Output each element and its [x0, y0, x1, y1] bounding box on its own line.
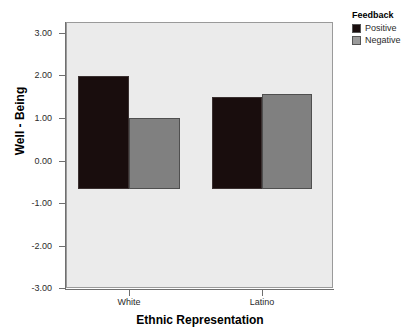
y-axis-line	[65, 22, 66, 289]
y-tick-mark	[59, 203, 66, 204]
chart-legend: Feedback Positive Negative	[352, 10, 416, 47]
legend-title: Feedback	[352, 10, 416, 20]
y-tick-mark	[59, 75, 66, 76]
y-tick-label: -3.00	[31, 283, 52, 293]
y-tick-label: -2.00	[31, 241, 52, 251]
bar-white-positive	[78, 76, 129, 189]
y-tick-label: 1.00	[34, 113, 52, 123]
legend-item-negative: Negative	[352, 35, 416, 45]
y-axis-title: Well - Being	[13, 87, 27, 155]
y-tick-mark	[59, 161, 66, 162]
x-tick-label-latino: Latino	[232, 297, 292, 307]
y-tick-label: -1.00	[31, 198, 52, 208]
y-tick-label: 2.00	[34, 70, 52, 80]
y-axis-title-wrapper: Well - Being	[10, 56, 28, 186]
x-tick-mark	[129, 289, 130, 296]
y-tick-label: 0.00	[34, 156, 52, 166]
bar-chart: 3.00 2.00 1.00 0.00 -1.00 -2.00 -3.00 We…	[0, 0, 416, 336]
x-tick-mark	[262, 289, 263, 296]
x-axis-title: Ethnic Representation	[0, 313, 400, 327]
y-tick-mark	[59, 246, 66, 247]
x-axis-line	[65, 289, 334, 290]
legend-swatch-positive-icon	[352, 24, 361, 33]
y-tick-label: 3.00	[34, 28, 52, 38]
y-tick-mark	[59, 118, 66, 119]
y-tick-mark	[59, 33, 66, 34]
bar-white-negative	[129, 118, 180, 189]
legend-label-positive: Positive	[365, 23, 397, 33]
legend-swatch-negative-icon	[352, 36, 361, 45]
legend-item-positive: Positive	[352, 23, 416, 33]
bar-latino-positive	[212, 97, 262, 189]
legend-label-negative: Negative	[365, 35, 401, 45]
bar-latino-negative	[262, 94, 312, 189]
x-tick-label-white: White	[99, 297, 159, 307]
